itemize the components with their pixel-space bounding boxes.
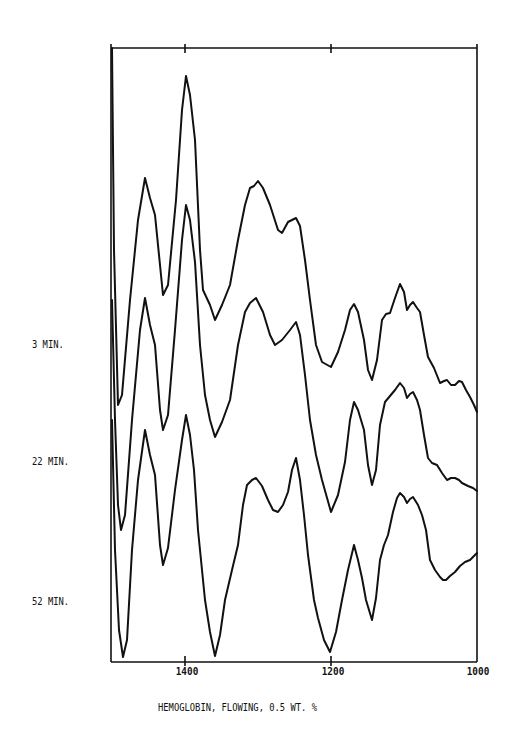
- trace-line-3: [112, 415, 477, 657]
- trace-label-52min: 52 MIN.: [32, 595, 69, 608]
- x-tick-label-1000: 1000: [467, 665, 490, 678]
- chart-caption: HEMOGLOBIN, FLOWING, 0.5 WT. %: [158, 701, 317, 714]
- plot-frame: [111, 44, 477, 666]
- x-tick-label-1400: 1400: [176, 665, 199, 678]
- x-tick-label-1200: 1200: [322, 665, 345, 678]
- traces: [112, 48, 477, 657]
- trace-line-1: [112, 48, 477, 412]
- trace-label-3min: 3 MIN.: [32, 338, 64, 351]
- spectra-plot: [0, 0, 519, 737]
- trace-line-2: [112, 205, 477, 530]
- trace-label-22min: 22 MIN.: [32, 455, 69, 468]
